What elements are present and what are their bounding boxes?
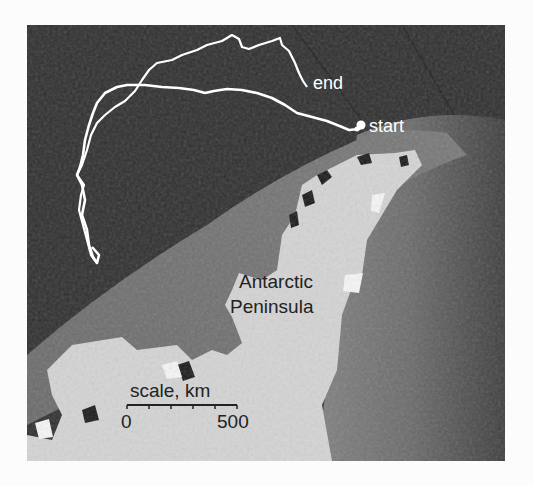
map-canvas: end start Antarctic Peninsula scale, km … xyxy=(27,25,505,461)
scale-max-label: 500 xyxy=(217,411,249,432)
scale-min-label: 0 xyxy=(121,411,132,432)
region-label-line1: Antarctic xyxy=(239,271,313,292)
texture-overlay xyxy=(27,25,505,461)
region-label-line2: Peninsula xyxy=(230,296,314,317)
scale-title: scale, km xyxy=(130,380,210,401)
map-view: end start Antarctic Peninsula scale, km … xyxy=(27,25,505,461)
start-label: start xyxy=(369,116,404,136)
end-label: end xyxy=(313,73,343,93)
